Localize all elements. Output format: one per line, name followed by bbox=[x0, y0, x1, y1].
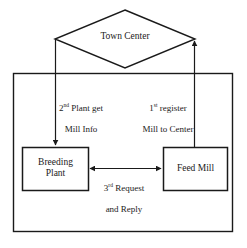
feed-mill-shape bbox=[164, 148, 228, 191]
town-center-shape bbox=[55, 10, 195, 68]
system-boundary-rect bbox=[14, 74, 233, 232]
flowchart-graphic bbox=[0, 0, 247, 248]
diagram-canvas: Town Center Breeding Plant Feed Mill 2nd… bbox=[0, 0, 247, 248]
breeding-plant-shape bbox=[23, 148, 89, 191]
